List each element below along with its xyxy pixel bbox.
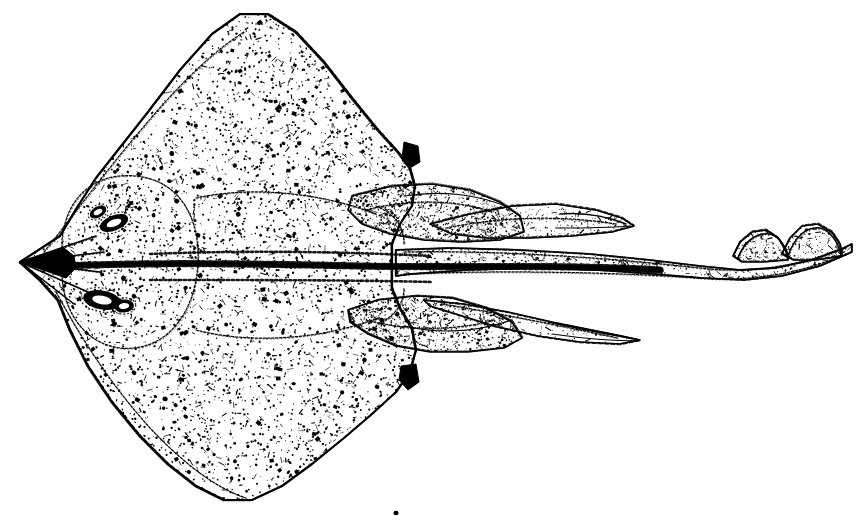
illustration-canvas (0, 0, 862, 529)
skate-illustration-svg (0, 0, 862, 529)
